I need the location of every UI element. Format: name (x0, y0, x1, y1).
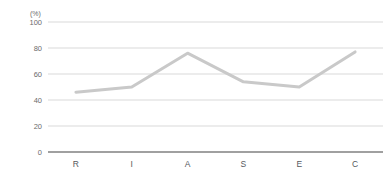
y-tick-label-40: 40 (34, 96, 42, 105)
x-tick-label-I: I (131, 159, 133, 169)
x-tick-label-R: R (73, 159, 79, 169)
y-tick-label-20: 20 (34, 122, 42, 131)
y-axis-unit-label: (%) (30, 10, 41, 18)
x-tick-label-C: C (352, 159, 358, 169)
chart-background (0, 0, 392, 184)
line-chart: 020406080100 (%) RIASEC (0, 0, 392, 184)
y-tick-label-0: 0 (38, 148, 42, 157)
y-tick-label-80: 80 (34, 44, 42, 53)
chart-canvas: 020406080100 (%) RIASEC (0, 0, 392, 184)
x-tick-label-E: E (296, 159, 302, 169)
x-tick-label-S: S (241, 159, 247, 169)
y-tick-label-100: 100 (29, 18, 42, 27)
y-tick-label-60: 60 (34, 70, 42, 79)
x-tick-label-A: A (185, 159, 191, 169)
